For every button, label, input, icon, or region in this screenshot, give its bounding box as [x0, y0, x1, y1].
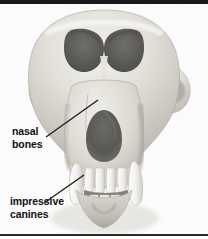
label-nasal-bones-line2: bones — [12, 138, 42, 151]
figure-container: nasal bones impressive canines — [0, 0, 208, 239]
skull-photograph: nasal bones impressive canines — [0, 4, 208, 236]
label-canines-line2: canines — [10, 208, 64, 221]
label-impressive-canines: impressive canines — [10, 195, 64, 220]
frame-bottom-edge — [0, 237, 208, 239]
label-canines-line1: impressive — [10, 195, 64, 208]
frame-bar-bottom — [0, 234, 208, 236]
label-nasal-bones: nasal bones — [12, 125, 42, 150]
label-nasal-bones-line1: nasal — [12, 125, 42, 138]
